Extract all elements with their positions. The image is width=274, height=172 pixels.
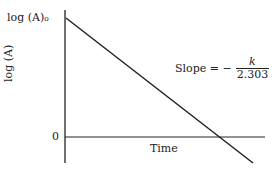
chart-canvas <box>0 0 274 172</box>
x-axis-label: Time <box>150 142 178 155</box>
slope-denominator: 2.303 <box>236 68 270 81</box>
slope-annotation: Slope = − k 2.303 <box>175 56 269 81</box>
slope-numerator: k <box>249 56 256 68</box>
y-tick-top: log (A)₀ <box>7 11 49 24</box>
y-axis-label: log (A) <box>2 45 15 82</box>
slope-prefix: Slope = − <box>175 62 232 75</box>
y-tick-zero: 0 <box>52 130 59 143</box>
